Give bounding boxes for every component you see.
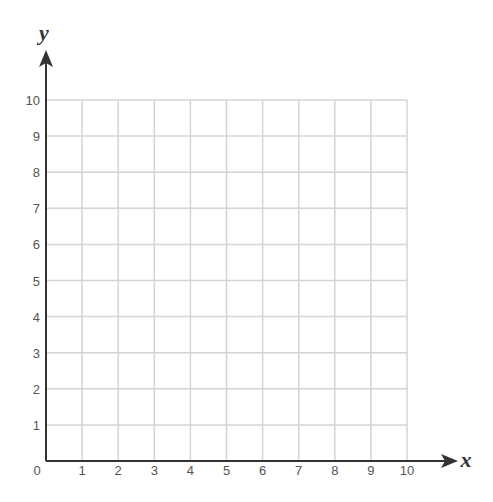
y-tick-label: 1: [33, 418, 40, 433]
y-tick-label: 6: [33, 237, 40, 252]
x-tick-label: 2: [115, 463, 122, 478]
y-tick-label: 3: [33, 346, 40, 361]
x-tick-label: 5: [223, 463, 230, 478]
x-tick-label: 1: [78, 463, 85, 478]
coordinate-grid: 01234567891012345678910xy: [0, 0, 493, 502]
x-tick-label: 3: [151, 463, 158, 478]
y-tick-label: 5: [33, 274, 40, 289]
x-tick-label: 10: [400, 463, 414, 478]
x-tick-label: 0: [33, 463, 40, 478]
y-tick-label: 2: [33, 382, 40, 397]
x-tick-label: 7: [295, 463, 302, 478]
x-tick-label: 4: [187, 463, 194, 478]
y-tick-label: 9: [33, 129, 40, 144]
x-tick-label: 6: [259, 463, 266, 478]
y-axis-label: y: [36, 20, 49, 45]
y-tick-label: 4: [33, 310, 40, 325]
x-tick-label: 8: [331, 463, 338, 478]
x-tick-label: 9: [367, 463, 374, 478]
y-tick-label: 8: [33, 165, 40, 180]
x-axis-label: x: [460, 447, 472, 472]
y-tick-label: 7: [33, 201, 40, 216]
y-tick-label: 10: [26, 93, 40, 108]
